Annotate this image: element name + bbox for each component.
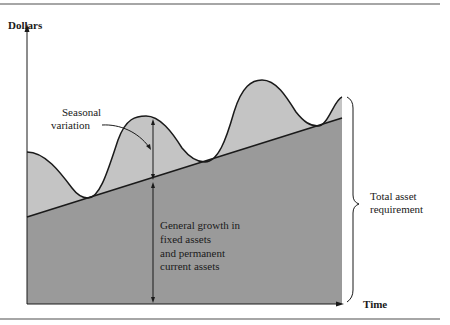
growth-label-line-2: fixed assets — [160, 233, 211, 245]
growth-label-line-1: General growth in — [160, 219, 240, 231]
growth-label-line-3: and permanent — [160, 247, 225, 259]
growth-label-line-4: current assets — [160, 260, 220, 272]
asset-requirement-diagram — [0, 0, 450, 325]
seasonal-label-line-2: variation — [51, 119, 90, 131]
permanent-area — [27, 118, 342, 304]
total-label-line-2: requirement — [370, 203, 423, 215]
brace-icon — [347, 97, 359, 302]
total-label-line-1: Total asset — [370, 190, 417, 202]
y-axis-label: Dollars — [8, 19, 42, 31]
x-axis-label: Time — [363, 298, 387, 310]
seasonal-label-line-1: Seasonal — [62, 106, 101, 118]
